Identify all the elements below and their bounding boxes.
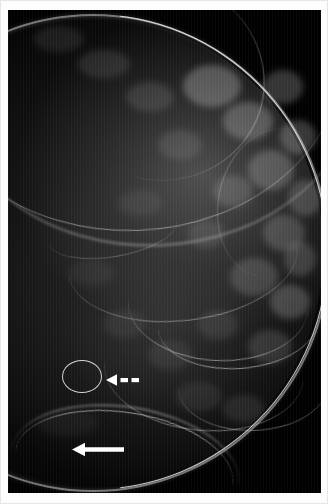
solid-arrow-icon — [72, 442, 124, 457]
figure-frame: Circled lesion Craniocaudal mammographic… — [0, 0, 328, 504]
mammogram-image: Circled lesion Craniocaudal mammographic… — [8, 10, 321, 493]
dashed-arrow-icon — [106, 373, 140, 387]
lesion-ellipse-annotation: Circled lesion — [62, 360, 102, 393]
